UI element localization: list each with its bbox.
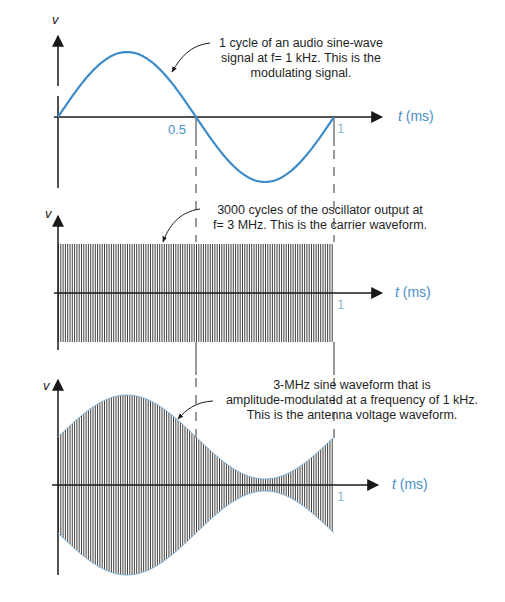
annotation-am: 3-MHz sine waveform that is amplitude-mo… <box>216 378 488 423</box>
x-axis-var: t <box>395 284 399 300</box>
annotation-line: This is the antenna voltage waveform. <box>216 408 488 423</box>
annotation-line: amplitude-modulated at a frequency of 1 … <box>216 393 488 408</box>
am-envelope-lower <box>58 491 334 575</box>
x-axis-label-carrier: t (ms) <box>395 284 431 300</box>
waveform-canvas <box>0 0 505 602</box>
annotation-line: signal at f= 1 kHz. This is the <box>208 51 394 66</box>
annotation-line: 3-MHz sine waveform that is <box>216 378 488 393</box>
annotation-line: 1 cycle of an audio sine-wave <box>208 36 394 51</box>
annotation-line: f= 3 MHz. This is the carrier waveform. <box>200 218 440 233</box>
annotation-modulating: 1 cycle of an audio sine-wave signal at … <box>208 36 394 81</box>
annotation-arrow-modulating <box>172 43 210 72</box>
tick-label-1ms: 1 <box>337 122 344 136</box>
annotation-line: 3000 cycles of the oscillator output at <box>200 203 440 218</box>
am-diagram: v 1 cycle of an audio sine-wave signal a… <box>0 0 505 602</box>
x-axis-var: t <box>398 108 402 124</box>
annotation-line: modulating signal. <box>208 66 394 81</box>
x-axis-label-modulating: t (ms) <box>398 108 434 124</box>
tick-label-1ms-am: 1 <box>337 490 344 504</box>
x-axis-unit: (ms) <box>406 108 434 124</box>
x-axis-unit: (ms) <box>403 284 431 300</box>
y-axis-label-carrier: v <box>45 206 52 221</box>
annotation-carrier: 3000 cycles of the oscillator output at … <box>200 203 440 233</box>
y-axis-label-am: v <box>43 378 50 393</box>
y-axis-label-modulating: v <box>52 12 59 27</box>
x-axis-label-am: t (ms) <box>392 476 428 492</box>
x-axis-unit: (ms) <box>400 476 428 492</box>
tick-label-1ms-carrier: 1 <box>337 298 344 312</box>
x-axis-var: t <box>392 476 396 492</box>
tick-label-0-5ms: 0.5 <box>168 122 186 137</box>
annotation-arrow-carrier <box>163 209 200 242</box>
